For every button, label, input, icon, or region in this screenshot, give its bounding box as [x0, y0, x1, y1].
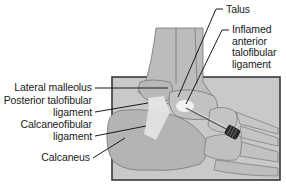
label-talus: Talus — [226, 4, 250, 16]
label-posterior-talofibular-ligament: Posterior talofibular ligament — [4, 95, 92, 118]
label-lateral-malleolus: Lateral malleolus — [14, 82, 92, 94]
label-inflamed-anterior-talofibular-ligament: Inflamed anterior talofibular ligament — [232, 24, 276, 70]
label-calcaneofibular-ligament: Calcaneofibular ligament — [21, 119, 92, 142]
label-calcaneus: Calcaneus — [41, 152, 90, 164]
ankle-ligament-diagram: Talus Inflamed anterior talofibular liga… — [0, 0, 286, 186]
